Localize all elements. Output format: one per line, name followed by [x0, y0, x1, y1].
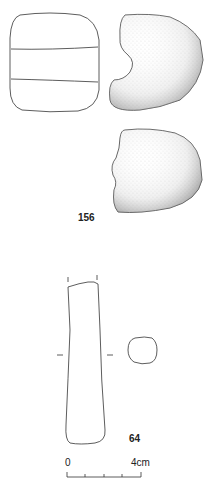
scale-start-label: 0	[65, 457, 71, 468]
object-156-side-view	[110, 14, 204, 110]
object-64-long-view	[57, 275, 113, 444]
object-64-label: 64	[129, 433, 140, 444]
object-64-cross-section	[128, 337, 157, 364]
drawing	[0, 0, 223, 487]
object-156-front-view	[10, 13, 99, 112]
scale-bar	[67, 472, 141, 477]
object-156-back-view	[112, 129, 202, 213]
scale-end-label: 4cm	[131, 457, 150, 468]
object-156-label: 156	[78, 212, 95, 223]
artifact-plate: 156 64 0 4cm	[0, 0, 223, 487]
